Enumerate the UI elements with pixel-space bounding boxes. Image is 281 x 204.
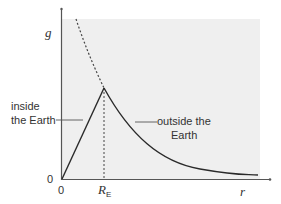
outside-earth-label-line2: Earth (171, 129, 197, 142)
y-origin-label: 0 (47, 173, 53, 186)
earth-radius-label: RE (98, 183, 111, 201)
earth-radius-subscript: E (106, 190, 111, 199)
outside-earth-label-line1: outside the (157, 115, 211, 128)
inside-earth-label-line2: the Earth (11, 114, 56, 127)
inside-earth-label-line1: inside (11, 100, 40, 113)
gravity-vs-radius-diagram (0, 0, 281, 204)
x-axis-arrow-icon (269, 178, 272, 181)
earth-radius-symbol: R (98, 182, 106, 197)
y-axis-arrow-icon (60, 8, 62, 10)
plot-background (62, 19, 260, 179)
x-axis-label: r (240, 185, 245, 198)
y-axis-label: g (45, 26, 52, 39)
x-origin-label: 0 (58, 184, 64, 197)
